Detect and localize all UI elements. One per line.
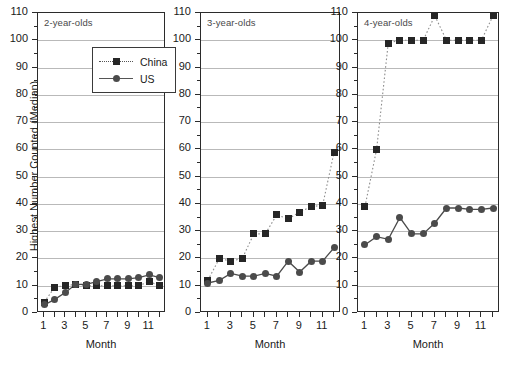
x-tick-3 — [387, 312, 388, 317]
x-tick-5 — [85, 312, 86, 317]
y-minor-tick-5 — [354, 298, 357, 299]
data-point-us-m6 — [262, 270, 269, 277]
x-tick-4 — [399, 312, 400, 317]
x-tick-1 — [43, 312, 44, 317]
figure-canvas: Highest Number Counted (Median) 2-year-o… — [0, 0, 514, 379]
data-point-us-m12 — [490, 205, 497, 212]
y-tick-label-30: 30 — [0, 223, 28, 235]
x-tick-label-11: 11 — [138, 319, 158, 331]
y-tick-50 — [352, 176, 357, 177]
x-tick-label-1: 1 — [197, 319, 217, 331]
x-tick-1 — [207, 312, 208, 317]
legend-label: US — [140, 73, 155, 85]
y-tick-label-50: 50 — [157, 169, 191, 181]
legend-symbol-square-icon — [99, 56, 133, 68]
y-tick-label-20: 20 — [314, 250, 348, 262]
x-tick-10 — [469, 312, 470, 317]
y-minor-tick-75 — [34, 107, 37, 108]
y-tick-90 — [352, 67, 357, 68]
data-point-us-m7 — [431, 220, 438, 227]
data-point-china-m10 — [466, 37, 473, 44]
data-point-china-m8 — [114, 282, 121, 289]
y-tick-label-30: 30 — [314, 223, 348, 235]
y-tick-100 — [195, 39, 200, 40]
data-point-china-m3 — [385, 40, 392, 47]
y-tick-0 — [32, 312, 37, 313]
y-tick-60 — [352, 148, 357, 149]
y-tick-label-0: 0 — [0, 305, 28, 317]
y-tick-10 — [195, 285, 200, 286]
x-tick-6 — [264, 312, 265, 317]
x-tick-2 — [218, 312, 219, 317]
y-tick-40 — [195, 203, 200, 204]
x-tick-8 — [117, 312, 118, 317]
x-tick-4 — [75, 312, 76, 317]
legend-marker — [113, 75, 120, 82]
x-tick-3 — [230, 312, 231, 317]
x-tick-4 — [241, 312, 242, 317]
y-minor-tick-65 — [34, 135, 37, 136]
y-minor-tick-95 — [354, 53, 357, 54]
data-point-china-m2 — [216, 255, 223, 262]
x-tick-1 — [364, 312, 365, 317]
legend-item-china[interactable]: China — [99, 53, 167, 70]
x-tick-label-5: 5 — [75, 319, 95, 331]
y-tick-label-100: 100 — [0, 32, 28, 44]
data-point-us-m1 — [204, 280, 211, 287]
x-tick-label-1: 1 — [33, 319, 53, 331]
y-tick-110 — [352, 12, 357, 13]
y-tick-0 — [352, 312, 357, 313]
y-tick-90 — [32, 67, 37, 68]
y-minor-tick-35 — [197, 217, 200, 218]
data-point-china-m4 — [396, 37, 403, 44]
y-tick-label-0: 0 — [157, 305, 191, 317]
y-minor-tick-85 — [34, 80, 37, 81]
x-tick-6 — [96, 312, 97, 317]
data-point-us-m5 — [83, 281, 90, 288]
y-tick-label-100: 100 — [314, 32, 348, 44]
y-tick-50 — [195, 176, 200, 177]
data-point-china-m4 — [239, 255, 246, 262]
y-tick-label-110: 110 — [314, 5, 348, 17]
y-tick-label-90: 90 — [0, 60, 28, 72]
x-tick-10 — [138, 312, 139, 317]
data-point-us-m7 — [273, 273, 280, 280]
x-tick-2 — [376, 312, 377, 317]
y-tick-label-20: 20 — [0, 250, 28, 262]
y-tick-40 — [352, 203, 357, 204]
y-minor-tick-25 — [354, 244, 357, 245]
y-tick-label-70: 70 — [314, 114, 348, 126]
y-tick-100 — [352, 39, 357, 40]
y-minor-tick-95 — [197, 53, 200, 54]
y-minor-tick-85 — [197, 80, 200, 81]
y-tick-70 — [32, 121, 37, 122]
data-point-china-m8 — [443, 37, 450, 44]
x-tick-11 — [148, 312, 149, 317]
legend-marker — [113, 58, 120, 65]
y-tick-90 — [195, 67, 200, 68]
y-tick-20 — [32, 257, 37, 258]
x-tick-label-5: 5 — [243, 319, 263, 331]
data-point-china-m9 — [455, 37, 462, 44]
legend-symbol-circle-icon — [99, 73, 133, 85]
y-minor-tick-55 — [354, 162, 357, 163]
x-tick-label-1: 1 — [354, 319, 374, 331]
y-tick-label-40: 40 — [157, 196, 191, 208]
data-point-us-m8 — [285, 258, 292, 265]
y-tick-30 — [32, 230, 37, 231]
y-tick-label-40: 40 — [0, 196, 28, 208]
x-tick-9 — [127, 312, 128, 317]
data-point-us-m9 — [455, 205, 462, 212]
legend-item-us[interactable]: US — [99, 70, 167, 87]
y-minor-tick-15 — [34, 271, 37, 272]
data-point-china-m11 — [478, 37, 485, 44]
data-point-china-m6 — [262, 230, 269, 237]
x-tick-7 — [276, 312, 277, 317]
data-point-china-m9 — [296, 209, 303, 216]
x-tick-label-7: 7 — [424, 319, 444, 331]
data-point-china-m8 — [285, 215, 292, 222]
x-tick-5 — [411, 312, 412, 317]
y-minor-tick-25 — [34, 244, 37, 245]
y-tick-label-50: 50 — [314, 169, 348, 181]
y-minor-tick-15 — [354, 271, 357, 272]
